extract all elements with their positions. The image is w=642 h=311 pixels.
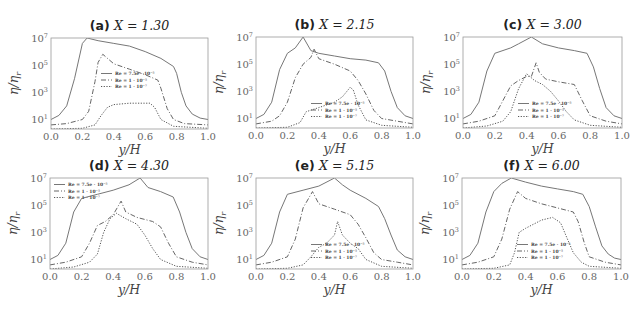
- x-tick-label: 0.0: [42, 271, 58, 282]
- legend: Re = 7.5e · 10⁻⁵Re = 1 · 10⁻⁵Re = 1 · 10…: [54, 182, 108, 200]
- y-tick-label: 107: [30, 172, 47, 184]
- y-tick-label: 103: [30, 226, 47, 238]
- x-tick-label: 0.4: [518, 271, 534, 282]
- x-tick-label: 0.2: [279, 130, 295, 141]
- legend-entry: Re = 7.5e · 10⁻⁵: [68, 182, 108, 187]
- y-axis-label: η/ηr: [211, 70, 228, 94]
- y-tick-label: 105: [236, 58, 253, 70]
- panel-title: (b) X = 2.15: [295, 17, 375, 32]
- legend-entry: Re = 1 · 10⁻⁵: [115, 78, 147, 83]
- legend-entry: Re = 1 · 10⁻⁵: [68, 189, 100, 194]
- x-tick-label: 1.0: [405, 271, 421, 282]
- x-axis-label: y/H: [117, 282, 141, 297]
- y-tick-label: 103: [236, 226, 253, 238]
- series-line-1: [462, 192, 621, 265]
- series-line-2: [50, 213, 208, 269]
- legend-entry: Re = 7.5e · 10⁻⁵: [531, 242, 571, 247]
- x-tick-label: 0.8: [169, 131, 185, 142]
- x-tick-label: 0.6: [549, 271, 565, 282]
- legend: Re = 7.5e · 10⁻⁵Re = 1 · 10⁻⁵Re = 1 · 10…: [311, 101, 365, 119]
- y-tick-label: 105: [31, 59, 48, 71]
- y-axis-label: η/ηr: [211, 211, 228, 235]
- series-line-0: [462, 178, 621, 260]
- x-tick-label: 0.0: [454, 271, 470, 282]
- y-tick-label: 101: [236, 112, 253, 124]
- y-tick-label: 103: [442, 226, 459, 238]
- y-axis-label: η/ηr: [6, 71, 23, 95]
- x-tick-label: 0.2: [486, 271, 502, 282]
- x-tick-label: 0.4: [311, 130, 327, 141]
- legend-entry: Re = 1 · 10⁻⁵: [531, 249, 563, 254]
- legend-entry: Re = 1 · 10⁻⁵: [325, 249, 357, 254]
- series-line-1: [256, 192, 413, 265]
- y-tick-label: 103: [236, 85, 253, 97]
- legend: Re = 7.5e · 10⁻⁵Re = 1 · 10⁻⁵Re = 1 · 10…: [101, 71, 155, 89]
- y-tick-label: 107: [236, 31, 253, 43]
- x-tick-label: 0.6: [137, 271, 153, 282]
- y-tick-label: 101: [31, 113, 48, 125]
- x-axis-label: y/H: [530, 141, 554, 156]
- y-tick-label: 107: [236, 172, 253, 184]
- y-tick-label: 103: [443, 85, 460, 97]
- y-tick-label: 107: [443, 31, 460, 43]
- series-line-0: [463, 37, 622, 119]
- x-tick-label: 0.4: [105, 271, 121, 282]
- x-tick-label: 0.6: [550, 130, 566, 141]
- figure-grid: (a) X = 1.300.00.20.40.60.81.01011031051…: [0, 0, 642, 311]
- legend-entry: Re = 1 · 10⁻⁵: [532, 108, 564, 113]
- panel-title: (f) X = 6.00: [503, 158, 579, 173]
- series-line-1: [50, 201, 208, 265]
- legend-entry: Re = 1 · 10⁻⁷: [531, 255, 563, 260]
- legend-entry: Re = 1 · 10⁻⁷: [325, 114, 357, 119]
- legend: Re = 7.5e · 10⁻⁵Re = 1 · 10⁻⁵Re = 1 · 10…: [311, 242, 365, 260]
- y-tick-label: 103: [31, 86, 48, 98]
- series-line-1: [51, 54, 208, 125]
- x-tick-label: 1.0: [405, 130, 421, 141]
- x-tick-label: 0.2: [74, 131, 90, 142]
- x-tick-label: 0.8: [582, 130, 598, 141]
- legend-entry: Re = 1 · 10⁻⁷: [115, 84, 147, 89]
- legend-entry: Re = 1 · 10⁻⁵: [325, 108, 357, 113]
- x-tick-label: 0.0: [455, 130, 471, 141]
- y-axis-label: η/ηr: [417, 211, 434, 235]
- x-tick-label: 0.8: [374, 130, 390, 141]
- y-tick-label: 101: [443, 112, 460, 124]
- y-tick-label: 101: [236, 253, 253, 265]
- x-tick-label: 0.4: [519, 130, 535, 141]
- x-tick-label: 0.4: [106, 131, 122, 142]
- panel-title: (e) X = 5.15: [295, 158, 374, 173]
- legend: Re = 7.5e · 10⁻⁵Re = 1 · 10⁻⁵Re = 1 · 10…: [518, 101, 572, 119]
- x-tick-label: 0.8: [374, 271, 390, 282]
- panel-title: (c) X = 3.00: [503, 17, 581, 32]
- x-tick-label: 1.0: [200, 271, 216, 282]
- chart-panel-c: (c) X = 3.000.00.20.40.60.81.01011031051…: [418, 17, 630, 156]
- chart-panel-e: (e) X = 5.150.00.20.40.60.81.01011031051…: [211, 158, 421, 297]
- y-tick-label: 107: [31, 32, 48, 44]
- x-tick-label: 0.0: [248, 130, 264, 141]
- y-tick-label: 105: [442, 199, 459, 211]
- chart-panel-a: (a) X = 1.300.00.20.40.60.81.01011031051…: [6, 18, 216, 157]
- panel-title: (d) X = 4.30: [89, 158, 169, 173]
- x-tick-label: 0.2: [279, 271, 295, 282]
- x-tick-label: 0.2: [74, 271, 90, 282]
- x-axis-label: y/H: [529, 282, 553, 297]
- x-tick-label: 1.0: [200, 131, 216, 142]
- legend-entry: Re = 1 · 10⁻⁷: [532, 114, 564, 119]
- x-tick-label: 0.2: [487, 130, 503, 141]
- legend-entry: Re = 7.5e · 10⁻⁵: [325, 242, 365, 247]
- series-line-0: [256, 178, 413, 260]
- y-tick-label: 105: [236, 199, 253, 211]
- x-tick-label: 0.6: [342, 130, 358, 141]
- y-axis-label: η/ηr: [5, 211, 22, 235]
- chart-panel-d: (d) X = 4.300.00.20.40.60.81.01011031051…: [5, 158, 216, 297]
- chart-panel-f: (f) X = 6.000.00.20.40.60.81.01011031051…: [417, 158, 629, 297]
- x-tick-label: 1.0: [613, 271, 629, 282]
- legend-entry: Re = 1 · 10⁻⁷: [68, 195, 100, 200]
- panel-title: (a) X = 1.30: [90, 18, 169, 33]
- x-axis-label: y/H: [117, 142, 141, 157]
- x-tick-label: 1.0: [614, 130, 630, 141]
- y-tick-label: 105: [443, 58, 460, 70]
- x-axis-label: y/H: [322, 282, 346, 297]
- x-tick-label: 0.0: [248, 271, 264, 282]
- y-tick-label: 105: [30, 199, 47, 211]
